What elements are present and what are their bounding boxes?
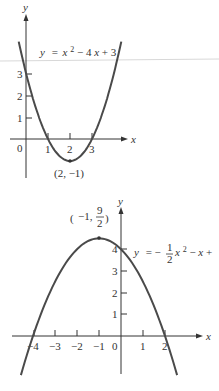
top-x-axis-label: x	[130, 133, 136, 145]
svg-text:2: 2	[97, 217, 103, 229]
svg-text:−1,: −1,	[78, 210, 93, 222]
bottom-x-axis-arrow-icon	[196, 334, 203, 339]
svg-text:y = −: y = −	[133, 246, 161, 258]
top-x-axis-arrow-icon	[121, 137, 128, 142]
bottom-equation-label: y = − 1 2 x 2 − x +	[133, 241, 212, 265]
bottom-vertex-point	[97, 236, 101, 240]
top-x-tick-1: 1	[45, 143, 51, 155]
top-y-tick-1: 1	[17, 112, 23, 124]
top-y-axis-arrow-icon	[24, 14, 29, 21]
svg-text:x 2 −: x 2 − x +	[174, 242, 212, 258]
top-x-tick-0: 0	[17, 142, 23, 154]
figure: y x 1 2 3 0 1 2 3 (2, −1) y = x 2 − 4 x …	[0, 0, 219, 391]
bottom-chart: y x 1 2 3 4 −4 −3 −2 −1 0 1 2 ( −1, 9	[12, 195, 212, 375]
bottom-y-tick-2: 2	[112, 287, 118, 299]
bottom-x-tick-0: 0	[112, 340, 118, 352]
bottom-x-tick-neg3: −3	[49, 340, 61, 352]
top-vertex-point	[68, 159, 72, 163]
top-y-tick-2: 2	[17, 90, 23, 102]
right-paren: )	[105, 212, 109, 225]
bottom-parabola-curve	[21, 238, 177, 375]
top-vertex-label: (2, −1)	[54, 167, 84, 180]
svg-text:2: 2	[167, 253, 173, 265]
svg-text:9: 9	[97, 204, 103, 216]
bottom-y-axis-label: y	[117, 195, 123, 207]
left-paren: (	[70, 212, 74, 225]
bottom-x-axis-label: x	[205, 330, 211, 342]
bottom-y-tick-3: 3	[112, 265, 118, 277]
bottom-y-axis-arrow-icon	[119, 207, 124, 214]
svg-text:1: 1	[167, 241, 173, 253]
scan-line	[0, 59, 219, 61]
bottom-x-tick-neg2: −2	[71, 340, 83, 352]
top-y-tick-3: 3	[17, 68, 23, 80]
top-equation-label: y = x 2 − 4 x + 3	[39, 42, 117, 58]
top-chart: y x 1 2 3 0 1 2 3 (2, −1) y = x 2 − 4 x …	[10, 1, 136, 180]
bottom-y-tick-1: 1	[112, 308, 118, 320]
top-x-tick-2: 2	[67, 143, 73, 155]
bottom-x-tick-1: 1	[140, 340, 146, 352]
top-y-axis-label: y	[22, 1, 28, 13]
bottom-vertex-label: ( −1, 9 2 )	[70, 204, 109, 229]
bottom-x-tick-neg1: −1	[93, 340, 105, 352]
